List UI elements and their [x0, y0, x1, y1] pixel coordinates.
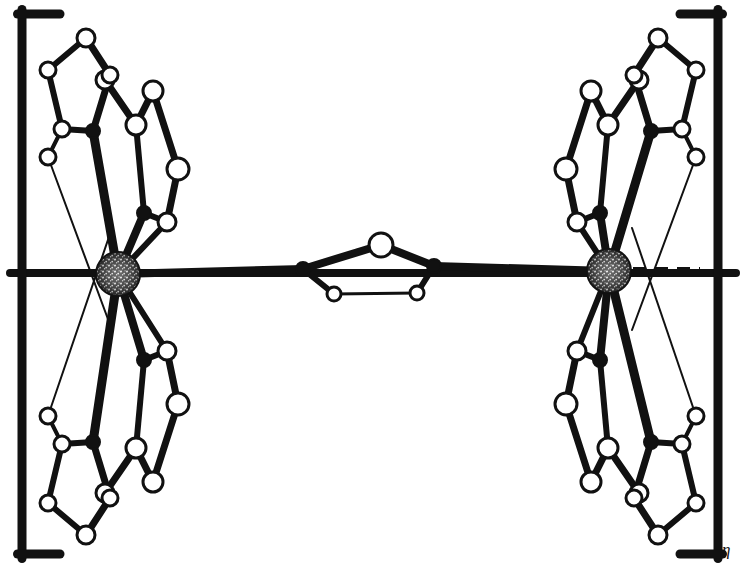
atom-open-circle	[555, 158, 577, 180]
atom-filled-circle	[593, 206, 607, 220]
atom-filled-circle	[86, 124, 100, 138]
atom-open-circle	[40, 408, 56, 424]
atom-open-circle	[626, 67, 642, 83]
atom-filled-circle	[644, 124, 658, 138]
atom-open-circle	[167, 393, 189, 415]
metal-centre-left-shading	[96, 252, 140, 296]
bridge-to-metal-right	[434, 266, 609, 271]
metal-centre-right-shading	[587, 249, 631, 293]
atom-open-circle	[626, 490, 642, 506]
atom-filled-circle	[86, 435, 100, 449]
atom-open-circle	[410, 286, 424, 300]
ligand-bond	[136, 125, 144, 213]
atom-open-circle	[102, 490, 118, 506]
atom-filled-circle	[137, 353, 151, 367]
atom-open-circle	[40, 149, 56, 165]
atom-open-circle	[598, 438, 618, 458]
ligand-thin-bond	[632, 157, 696, 330]
atom-open-circle	[77, 29, 95, 47]
atom-open-circle	[158, 342, 176, 360]
atom-open-circle	[77, 526, 95, 544]
atom-open-circle	[688, 149, 704, 165]
atom-open-circle	[327, 287, 341, 301]
atom-open-circle	[54, 436, 70, 452]
atom-open-circle	[688, 62, 704, 78]
atom-filled-circle	[593, 353, 607, 367]
molecular-structure-canvas	[0, 0, 744, 574]
atom-open-circle	[126, 438, 146, 458]
atom-open-circle	[167, 158, 189, 180]
atom-open-circle	[674, 121, 690, 137]
metal-ligand-bond	[93, 274, 118, 442]
ligand-left-upper-mirrored	[555, 29, 704, 330]
atom-filled-circle	[296, 262, 310, 276]
atom-open-circle	[40, 62, 56, 78]
eta-subscript-label: η	[722, 541, 730, 558]
atom-open-circle	[126, 115, 146, 135]
atom-open-circle	[568, 213, 586, 231]
atom-open-circle	[158, 213, 176, 231]
atom-filled-circle	[644, 435, 658, 449]
atom-open-circle	[649, 29, 667, 47]
atom-open-circle	[581, 81, 601, 101]
atom-open-circle	[555, 393, 577, 415]
atom-open-circle	[143, 472, 163, 492]
atom-open-circle	[54, 121, 70, 137]
atom-filled-circle	[137, 206, 151, 220]
atom-open-circle	[688, 408, 704, 424]
atom-open-circle	[674, 436, 690, 452]
atom-open-circle	[649, 526, 667, 544]
ligand-bond	[600, 125, 608, 213]
atom-open-circle	[688, 495, 704, 511]
atom-open-circle	[40, 495, 56, 511]
atom-open-circle	[581, 472, 601, 492]
atom-open-circle	[598, 115, 618, 135]
structure-figure: η	[0, 0, 744, 574]
bridge-bond	[334, 293, 417, 294]
atom-open-circle	[568, 342, 586, 360]
atom-open-circle	[369, 233, 393, 257]
atom-open-circle	[143, 81, 163, 101]
bridge-layer	[118, 233, 609, 301]
atom-filled-circle	[427, 259, 441, 273]
ligand-bond	[136, 360, 144, 448]
ligand-bond	[600, 360, 608, 448]
atom-open-circle	[102, 67, 118, 83]
